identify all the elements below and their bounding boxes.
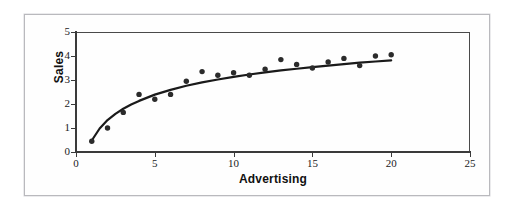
y-tick-mark	[71, 56, 75, 57]
data-point	[310, 65, 315, 70]
x-tick-mark	[470, 153, 471, 157]
x-tick-label: 15	[302, 158, 322, 169]
data-point	[357, 63, 362, 68]
x-tick-mark	[312, 153, 313, 157]
x-tick-mark	[234, 153, 235, 157]
trendline	[92, 60, 391, 140]
y-tick-mark	[71, 104, 75, 105]
x-tick-mark	[76, 153, 77, 157]
data-point	[294, 62, 299, 67]
data-point	[215, 73, 220, 78]
data-point	[325, 59, 330, 64]
data-point	[262, 67, 267, 72]
data-point	[341, 56, 346, 61]
data-point	[231, 70, 236, 75]
data-point	[199, 69, 204, 74]
x-tick-label: 10	[224, 158, 244, 169]
y-tick-label: 0	[56, 146, 70, 157]
plot-data-layer	[76, 32, 470, 152]
data-point	[389, 52, 394, 57]
data-point	[105, 125, 110, 130]
data-point	[121, 110, 126, 115]
y-tick-mark	[71, 152, 75, 153]
data-point	[89, 139, 94, 144]
data-point	[184, 79, 189, 84]
chart-figure: 012345 0510152025 Advertising Sales	[0, 0, 514, 219]
y-tick-mark	[71, 32, 75, 33]
trendline-path	[92, 60, 391, 140]
data-point	[278, 57, 283, 62]
x-tick-label: 25	[460, 158, 480, 169]
data-point	[373, 53, 378, 58]
data-point	[152, 97, 157, 102]
data-point	[168, 92, 173, 97]
y-tick-mark	[71, 80, 75, 81]
x-tick-mark	[155, 153, 156, 157]
x-axis-title: Advertising	[76, 172, 470, 186]
y-axis-title: Sales	[52, 32, 66, 102]
y-tick-label: 1	[56, 122, 70, 133]
scatter-points	[89, 52, 394, 144]
data-point	[136, 92, 141, 97]
x-tick-label: 20	[381, 158, 401, 169]
data-point	[247, 73, 252, 78]
x-tick-label: 0	[66, 158, 86, 169]
x-tick-label: 5	[145, 158, 165, 169]
x-tick-mark	[391, 153, 392, 157]
y-tick-mark	[71, 128, 75, 129]
